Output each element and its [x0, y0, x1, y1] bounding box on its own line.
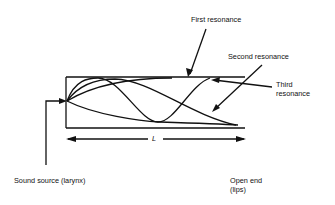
third-resonance-leader: [214, 80, 272, 87]
second-resonance-leader: [215, 65, 262, 109]
length-label: L: [152, 134, 156, 143]
first-resonance-label: First resonance: [191, 15, 241, 24]
resonance-diagram: [0, 0, 335, 205]
source-leader: [46, 101, 62, 165]
second-resonance-label: Second resonance: [228, 52, 289, 61]
length-left-arrowhead-icon: [66, 136, 76, 142]
lower-curve: [67, 101, 238, 125]
third-resonance-label-1: Third: [276, 80, 293, 89]
open-end-label-2: (lips): [230, 185, 246, 194]
sound-source-label: Sound source (larynx): [14, 176, 85, 185]
open-end-label-1: Open end: [230, 176, 262, 185]
third-arrowhead-icon: [211, 77, 220, 83]
third-resonance-curve: [67, 79, 236, 125]
first-resonance-leader: [190, 29, 206, 74]
length-right-arrowhead-icon: [236, 136, 246, 142]
third-resonance-label-2: resonance: [276, 89, 310, 98]
